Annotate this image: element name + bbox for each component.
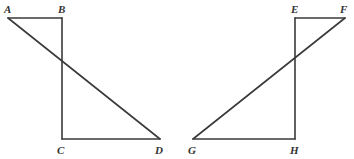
geometry-canvas: A B C D E F G H <box>0 0 354 159</box>
vertex-label-g: G <box>188 144 196 156</box>
right-figure: E F G H <box>188 3 348 156</box>
geometry-diagram: A B C D E F G H <box>0 0 354 159</box>
vertex-label-e: E <box>290 3 298 15</box>
vertex-label-b: B <box>57 3 65 15</box>
vertex-label-h: H <box>289 144 299 156</box>
vertex-label-d: D <box>154 144 163 156</box>
vertex-label-c: C <box>57 144 65 156</box>
vertex-label-f: F <box>339 3 348 15</box>
vertex-label-a: A <box>3 3 11 15</box>
segment-ad-diagonal <box>8 18 160 139</box>
segment-gf-diagonal <box>193 18 345 139</box>
left-figure: A B C D <box>3 3 163 156</box>
